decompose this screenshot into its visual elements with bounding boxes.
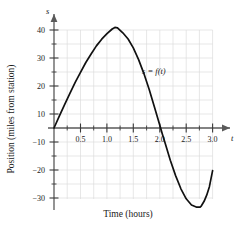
x-tick-label-2: 1.5 [128, 135, 138, 144]
y-tick-label-4: −10 [32, 138, 45, 147]
y-tick-label-3: 10 [37, 110, 45, 119]
x-axis-title: Time (hours) [103, 209, 153, 220]
y-axis-title: Position (miles from station) [6, 65, 17, 174]
y-tick-labels: 40 30 20 10 −10 −20 −30 [32, 26, 45, 203]
x-axis [48, 125, 230, 132]
y-axis [51, 14, 58, 210]
x-tick-label-0: 0.5 [76, 135, 86, 144]
y-tick-label-6: −30 [32, 194, 45, 203]
y-tick-label-2: 20 [37, 82, 45, 91]
curve-equation-label: s = f(t) [142, 66, 166, 76]
x-axis-variable-label: t [231, 133, 234, 143]
y-tick-label-5: −20 [32, 166, 45, 175]
grid-vertical-minor [67, 30, 212, 199]
x-tick-label-4: 2.5 [181, 135, 191, 144]
figure-container: 0.5 1.0 1.5 2.0 2.5 3.0 40 30 20 10 −10 … [0, 0, 252, 225]
x-tick-label-1: 1.0 [102, 135, 112, 144]
y-tick-label-0: 40 [37, 26, 45, 35]
y-axis-variable-label: s [46, 6, 50, 16]
x-tick-label-5: 3.0 [208, 135, 218, 144]
position-vs-time-graph: 0.5 1.0 1.5 2.0 2.5 3.0 40 30 20 10 −10 … [0, 0, 252, 225]
y-tick-label-1: 30 [37, 54, 45, 63]
